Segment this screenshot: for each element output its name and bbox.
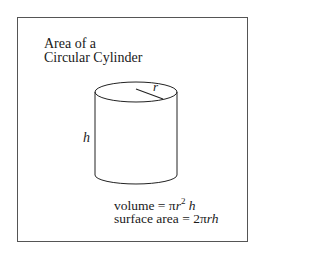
- height-label: h: [83, 130, 90, 145]
- radius-label: r: [153, 79, 159, 94]
- cylinder-top-ellipse: [95, 82, 177, 102]
- surface-area-formula: surface area = 2πrh: [114, 212, 219, 225]
- cylinder-bottom-arc: [95, 175, 177, 184]
- volume-formula: volume = πr2 h: [114, 195, 219, 212]
- radius-line: [136, 89, 163, 99]
- formulas: volume = πr2 h surface area = 2πrh: [114, 195, 219, 225]
